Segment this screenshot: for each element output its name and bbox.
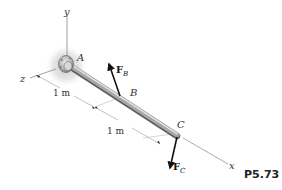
dimension-label-bc: 1 m — [107, 126, 125, 136]
support-hub — [64, 62, 72, 71]
dimension-line — [98, 109, 118, 120]
point-label-b: B — [129, 87, 137, 98]
dimension-label-ab: 1 m — [53, 88, 71, 98]
bolt-icon — [69, 57, 71, 59]
point-label-c: C — [177, 119, 185, 130]
extension-line — [143, 134, 172, 138]
force-subscript-fb: B — [122, 70, 128, 78]
force-subscript-fc: C — [180, 167, 186, 175]
point-label-a: A — [76, 52, 84, 63]
z-axis-label: z — [19, 73, 26, 84]
problem-number: P5.73 — [244, 168, 279, 181]
bolt-icon — [60, 66, 62, 68]
x-axis-line — [183, 138, 228, 164]
x-axis-label: x — [229, 160, 235, 171]
dimension-line — [74, 96, 92, 106]
cantilever-rod-diagram: y z 1 m 1 m x A F B B C F C P5.73 — [0, 0, 282, 190]
dimension-tick — [92, 106, 95, 109]
rod — [74, 68, 177, 135]
extension-line — [95, 98, 118, 107]
y-axis-label: y — [63, 6, 70, 17]
bolt-icon — [61, 59, 63, 61]
